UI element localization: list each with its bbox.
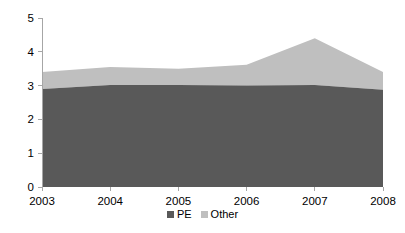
y-axis-tick-labels: 012345 [28,12,35,193]
area-series-pe [42,85,383,187]
legend-swatch-pe [167,211,174,218]
x-tick-label: 2003 [29,195,55,207]
legend-label-other: Other [211,209,239,220]
y-tick-label: 4 [28,46,35,58]
x-tick-label: 2007 [302,195,328,207]
y-tick-label: 0 [28,181,34,193]
x-tick-label: 2004 [97,195,123,207]
x-tick-label: 2008 [370,195,396,207]
x-axis-ticks [42,187,383,191]
chart-legend: PE Other [0,209,405,220]
y-tick-label: 5 [28,12,34,24]
x-tick-label: 2005 [166,195,192,207]
legend-item-other[interactable]: Other [201,209,239,220]
area-series-other [42,38,383,89]
legend-label-pe: PE [177,209,192,220]
stacked-area-chart: 012345 200320042005200620072008 PE Other [0,0,405,233]
x-axis-tick-labels: 200320042005200620072008 [29,195,396,207]
x-tick-label: 2006 [234,195,260,207]
y-tick-label: 1 [28,147,34,159]
legend-swatch-other [201,211,208,218]
chart-plot-area: 012345 200320042005200620072008 [0,0,405,233]
area-series-group [42,38,383,187]
y-tick-label: 2 [28,113,34,125]
y-tick-label: 3 [28,80,34,92]
y-axis-ticks [38,18,42,187]
legend-item-pe[interactable]: PE [167,209,192,220]
